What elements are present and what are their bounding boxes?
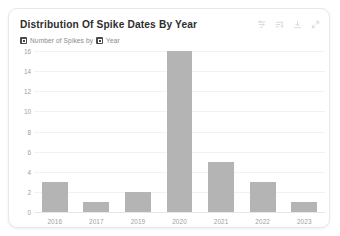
- bar-slot: [76, 51, 118, 212]
- bar-series: [34, 51, 325, 212]
- bar-slot: [200, 51, 242, 212]
- chart-plot-area: 0246810121416 20162017201920202021202220…: [9, 51, 330, 228]
- bar-slot: [283, 51, 325, 212]
- y-axis-tick-label: 0: [9, 209, 31, 216]
- download-icon[interactable]: [293, 20, 302, 29]
- filter-icon[interactable]: [257, 20, 266, 29]
- x-axis-tick-label: 2016: [34, 212, 76, 228]
- bar-2021[interactable]: [208, 162, 234, 212]
- chart-subtitle-legend: Number of Spikes by Year: [20, 37, 120, 44]
- chart-card: Distribution Of Spike Dates By Year Numb…: [8, 8, 330, 228]
- chart-toolbar: [257, 20, 320, 29]
- x-axis-tick-label: 2020: [159, 212, 201, 228]
- sort-icon[interactable]: [275, 20, 284, 29]
- x-axis: 2016201720192020202120222023: [34, 212, 325, 228]
- page-title: Distribution Of Spike Dates By Year: [20, 19, 197, 30]
- expand-icon[interactable]: [311, 20, 320, 29]
- legend-measure-label: Number of Spikes by: [30, 37, 93, 44]
- bar-2016[interactable]: [42, 182, 68, 212]
- y-axis-tick-label: 8: [9, 128, 31, 135]
- y-axis-tick-label: 4: [9, 168, 31, 175]
- y-axis-tick-label: 10: [9, 108, 31, 115]
- measure-field-icon: [20, 37, 27, 44]
- bar-slot: [117, 51, 159, 212]
- x-axis-tick-label: 2022: [242, 212, 284, 228]
- x-axis-tick-label: 2023: [283, 212, 325, 228]
- bar-2017[interactable]: [83, 202, 109, 212]
- bar-slot: [159, 51, 201, 212]
- x-axis-tick-label: 2019: [117, 212, 159, 228]
- y-axis: 0246810121416: [9, 51, 31, 212]
- bar-2019[interactable]: [125, 192, 151, 212]
- bar-2020[interactable]: [167, 51, 193, 212]
- dimension-field-icon: [96, 37, 103, 44]
- y-axis-tick-label: 6: [9, 148, 31, 155]
- bar-slot: [242, 51, 284, 212]
- card-header: Distribution Of Spike Dates By Year Numb…: [9, 9, 329, 51]
- bar-2022[interactable]: [250, 182, 276, 212]
- y-axis-tick-label: 2: [9, 188, 31, 195]
- y-axis-tick-label: 16: [9, 48, 31, 55]
- x-axis-tick-label: 2021: [200, 212, 242, 228]
- y-axis-tick-label: 14: [9, 68, 31, 75]
- legend-dimension-label: Year: [106, 37, 120, 44]
- y-axis-tick-label: 12: [9, 88, 31, 95]
- bar-2023[interactable]: [291, 202, 317, 212]
- x-axis-tick-label: 2017: [76, 212, 118, 228]
- bar-slot: [34, 51, 76, 212]
